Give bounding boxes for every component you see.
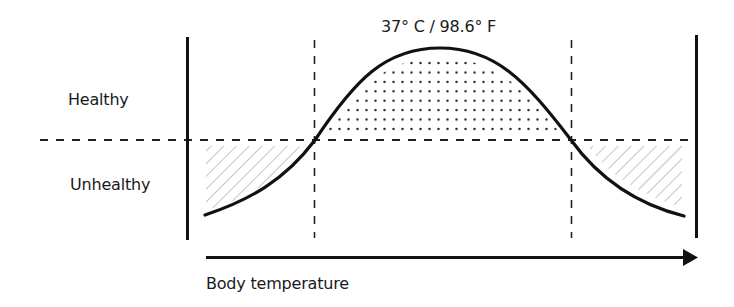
healthy-label: Healthy (68, 92, 129, 108)
healthy-dotted-region (326, 58, 560, 133)
unhealthy-low-hatched-region (206, 146, 300, 210)
temperature-health-diagram (0, 0, 734, 307)
unhealthy-label: Unhealthy (70, 177, 150, 193)
x-axis-label: Body temperature (206, 276, 349, 292)
x-axis-arrowhead-icon (683, 249, 698, 266)
peak-temperature-label: 37° C / 98.6° F (381, 19, 496, 35)
